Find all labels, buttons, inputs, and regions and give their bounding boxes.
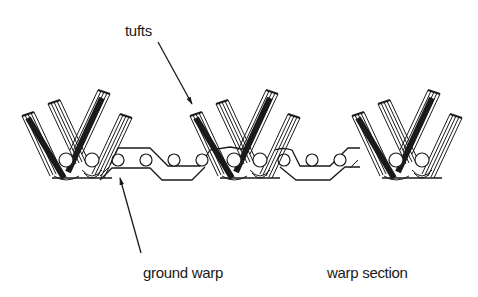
tufts-arrow [158, 42, 192, 104]
ground-warp-arrow [120, 178, 141, 253]
tuft-group-1 [22, 90, 132, 180]
tuft-group-3 [352, 90, 462, 180]
carpet-cross-section-diagram [0, 0, 478, 297]
